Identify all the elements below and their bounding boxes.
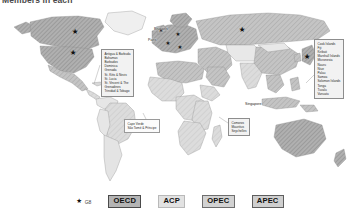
legend-label-g8: G8 [85,199,92,205]
star-icon-germany: ★ [176,31,181,37]
callout-atlantic-islands[interactable]: Cape Verde São Tomé & Príncipe [124,119,160,133]
callout-item: São Tomé & Príncipe [128,126,157,130]
legend-item-opec[interactable]: OPEC [202,195,235,209]
city-label-singapore: Singapore [245,102,261,106]
star-icon: ★ [76,198,82,205]
map-canvas[interactable]: ★ ★ ★ ★ ★ ★ ★ ★ Brussels Paris Singapore [0,5,360,187]
country-philippines[interactable] [290,77,300,91]
callout-item: Trinidad & Tobago [105,89,131,93]
legend-bar: ★ G8 OECD ACP OPEC APEC [0,187,360,216]
callout-indian-ocean-islands[interactable]: Comoros Mauritius Seychelles [228,118,250,136]
legend-item-g8[interactable]: ★ G8 [76,198,91,205]
world-map-infographic: Members in each [0,0,360,216]
callout-caribbean-islands[interactable]: Antigua & Barbuda Bahamas Barbados Domin… [101,49,134,97]
city-label-brussels: Brussels [154,27,168,31]
callout-pacific-islands[interactable]: Cook Islands Fiji Kiribati Marshall Isla… [314,39,344,99]
star-icon-united-states: ★ [70,48,77,57]
city-label-paris: Paris [148,38,156,42]
callout-item: Vanuatu [318,92,341,96]
callout-item: Solomon Islands [318,79,341,83]
star-icon-france: ★ [166,40,171,46]
star-icon-russia: ★ [239,25,246,34]
star-icon-japan: ★ [304,52,311,61]
star-icon-italy: ★ [178,44,183,50]
star-icon-canada: ★ [72,27,79,36]
legend-item-oecd[interactable]: OECD [108,195,141,209]
legend-item-apec[interactable]: APEC [252,195,284,209]
world-map-svg[interactable]: ★ ★ ★ ★ ★ ★ ★ ★ [0,5,360,187]
callout-item: Seychelles [232,129,247,133]
legend-item-acp[interactable]: ACP [158,195,185,209]
